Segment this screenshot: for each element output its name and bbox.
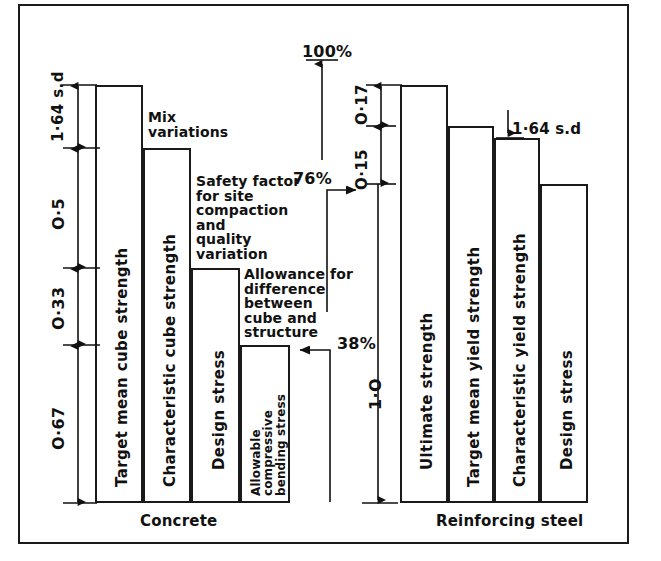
steel-unity-dimension bbox=[362, 184, 398, 503]
left-dimension-stack bbox=[63, 85, 100, 503]
leader-38-percent bbox=[300, 350, 330, 502]
steel-1-64sd-marker bbox=[496, 110, 524, 138]
steel-small-dimension-stack bbox=[366, 85, 402, 184]
leader-76-percent bbox=[327, 190, 356, 312]
annotation-overlay bbox=[0, 0, 661, 561]
percent-markers-overlay bbox=[300, 60, 356, 502]
figure-canvas: Target mean cube strength Characteristic… bbox=[0, 0, 661, 561]
